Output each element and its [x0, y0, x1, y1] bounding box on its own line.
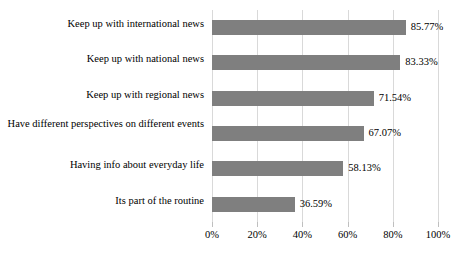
category-label-1: Keep up with national news [0, 53, 208, 65]
bar-row: 71.54% [212, 81, 438, 116]
bar-row: 85.77% [212, 10, 438, 45]
x-tick-label-40: 40% [293, 228, 312, 241]
x-tick-label-20: 20% [248, 228, 267, 241]
bar-3[interactable] [212, 126, 364, 141]
bar-1[interactable] [212, 55, 400, 70]
bar-chart: Keep up with international news Keep up … [0, 0, 462, 260]
category-label-5: Its part of the routine [0, 195, 208, 207]
bar-row: 36.59% [212, 187, 438, 222]
x-tick-label-100: 100% [426, 228, 451, 241]
bar-2[interactable] [212, 91, 374, 106]
x-tick-100 [438, 222, 439, 227]
x-tick-80 [393, 222, 394, 227]
x-tick-label-60: 60% [338, 228, 357, 241]
x-tick-label-80: 80% [383, 228, 402, 241]
bar-value-4: 58.13% [348, 160, 380, 176]
plot-area: 85.77% 83.33% 71.54% 67.07% 58.13% 36.59… [212, 10, 438, 222]
bar-5[interactable] [212, 197, 295, 212]
bar-row: 83.33% [212, 45, 438, 80]
x-tick-label-0: 0% [205, 228, 219, 241]
x-tick-20 [257, 222, 258, 227]
bar-4[interactable] [212, 161, 343, 176]
x-tick-40 [302, 222, 303, 227]
bar-value-1: 83.33% [405, 54, 437, 70]
bar-value-5: 36.59% [300, 196, 332, 212]
category-label-4: Having info about everyday life [0, 159, 208, 171]
category-label-2: Keep up with regional news [0, 89, 208, 101]
x-axis: 0% 20% 40% 60% 80% 100% [212, 222, 438, 246]
x-tick-60 [348, 222, 349, 227]
gridline-100 [438, 10, 439, 222]
bar-0[interactable] [212, 20, 406, 35]
bar-value-2: 71.54% [379, 90, 411, 106]
bar-row: 67.07% [212, 116, 438, 151]
category-axis-labels: Keep up with international news Keep up … [0, 10, 208, 222]
category-label-0: Keep up with international news [0, 18, 208, 30]
x-tick-0 [212, 222, 213, 227]
bar-value-0: 85.77% [411, 19, 443, 35]
bar-row: 58.13% [212, 151, 438, 186]
bar-value-3: 67.07% [369, 125, 401, 141]
category-label-3: Have different perspectives on different… [0, 118, 208, 130]
